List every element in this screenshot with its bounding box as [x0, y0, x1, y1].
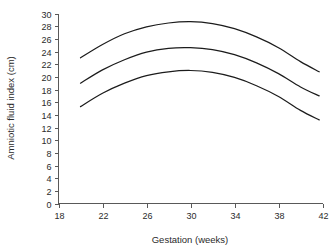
y-axis-tick-label: 30 — [41, 10, 51, 20]
y-axis-tick-label: 26 — [41, 35, 51, 45]
y-axis-tick-label: 16 — [41, 98, 51, 108]
x-axis-tick-label: 42 — [318, 211, 328, 221]
x-axis-ticks — [60, 204, 324, 208]
x-axis: 18222630343842 — [54, 204, 328, 221]
y-axis-ticks — [55, 15, 59, 205]
x-axis-tick-label: 18 — [54, 211, 64, 221]
y-axis-tick-label: 0 — [46, 200, 51, 210]
x-axis-tick-label: 30 — [186, 211, 196, 221]
percentile-curve-upper — [81, 22, 320, 72]
y-axis: 024681012141618202224262830 — [41, 10, 58, 210]
y-axis-tick-label: 10 — [41, 136, 51, 146]
percentile-curve-lower — [81, 70, 320, 119]
y-axis-tick-label: 12 — [41, 124, 51, 134]
x-axis-tick-label: 26 — [142, 211, 152, 221]
y-axis-tick-labels: 024681012141618202224262830 — [41, 10, 51, 210]
y-axis-tick-label: 18 — [41, 86, 51, 96]
y-axis-tick-label: 22 — [41, 60, 51, 70]
percentile-curve-middle — [81, 48, 320, 96]
y-axis-tick-label: 14 — [41, 111, 51, 121]
y-axis-tick-label: 4 — [46, 174, 51, 184]
x-axis-tick-label: 34 — [230, 211, 240, 221]
y-axis-tick-label: 20 — [41, 73, 51, 83]
x-axis-tick-label: 38 — [274, 211, 284, 221]
chart-canvas: 024681012141618202224262830 182226303438… — [0, 0, 336, 249]
x-axis-title: Gestation (weeks) — [152, 234, 229, 245]
x-axis-tick-labels: 18222630343842 — [54, 211, 328, 221]
y-axis-tick-label: 28 — [41, 22, 51, 32]
y-axis-tick-label: 2 — [46, 187, 51, 197]
y-axis-tick-label: 6 — [46, 162, 51, 172]
amniotic-fluid-index-chart: 024681012141618202224262830 182226303438… — [0, 0, 336, 249]
y-axis-tick-label: 8 — [46, 149, 51, 159]
y-axis-tick-label: 24 — [41, 48, 51, 58]
percentile-curves — [81, 22, 320, 120]
x-axis-tick-label: 22 — [98, 211, 108, 221]
y-axis-title: Amniotic fluid index (cm) — [5, 56, 16, 159]
